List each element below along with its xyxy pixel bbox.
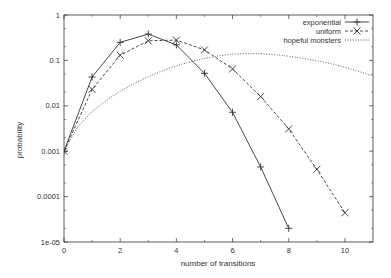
series-line bbox=[64, 34, 289, 228]
legend-label: hopeful monsters bbox=[283, 36, 341, 45]
line-chart: 024681010.10.010.0010.00011e-05 exponent… bbox=[0, 0, 391, 278]
x-tick-label: 4 bbox=[174, 246, 178, 255]
axis-ticks: 024681010.10.010.0010.00011e-05 bbox=[37, 11, 373, 256]
series-hopeful-monsters bbox=[64, 54, 373, 152]
y-tick-label: 0.01 bbox=[45, 101, 60, 110]
legend-label: exponential bbox=[303, 18, 342, 27]
x-tick-label: 10 bbox=[341, 246, 349, 255]
y-tick-label: 0.1 bbox=[50, 56, 60, 65]
plot-frame bbox=[64, 15, 373, 242]
y-axis-label: probability bbox=[15, 122, 24, 158]
series-line bbox=[64, 54, 373, 152]
series-exponential bbox=[61, 31, 293, 232]
y-tick-label: 1 bbox=[56, 11, 60, 20]
series-line bbox=[64, 40, 345, 213]
legend-label: uniform bbox=[316, 27, 341, 36]
x-tick-label: 2 bbox=[118, 246, 122, 255]
series-lines bbox=[61, 31, 374, 232]
y-tick-label: 0.001 bbox=[41, 147, 60, 156]
x-axis-label: number of transitions bbox=[181, 259, 256, 268]
series-uniform bbox=[61, 37, 349, 217]
y-tick-label: 1e-05 bbox=[41, 238, 60, 247]
legend: exponentialuniformhopeful monsters bbox=[283, 18, 369, 45]
plot-border bbox=[64, 15, 373, 242]
x-tick-label: 0 bbox=[62, 246, 66, 255]
x-tick-label: 6 bbox=[230, 246, 234, 255]
x-tick-label: 8 bbox=[287, 246, 291, 255]
y-tick-label: 0.0001 bbox=[37, 192, 60, 201]
